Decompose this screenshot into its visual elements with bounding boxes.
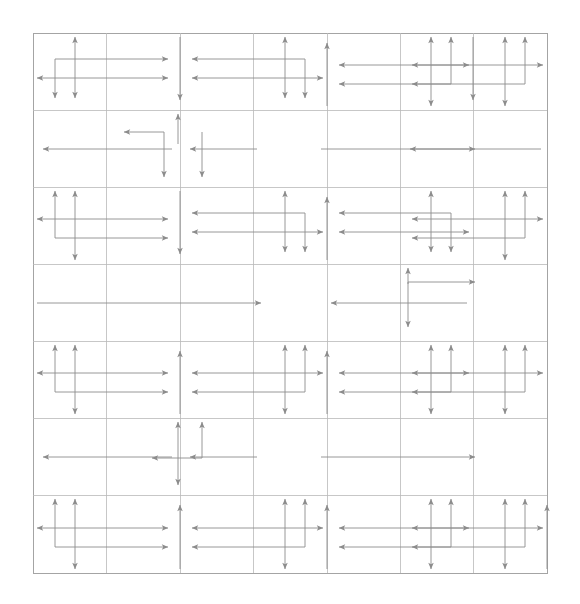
figure-root: [0, 0, 580, 604]
grid-border: [34, 34, 548, 574]
arrow-motif-layer: [37, 37, 547, 569]
arrow-grid-diagram: [0, 0, 580, 604]
